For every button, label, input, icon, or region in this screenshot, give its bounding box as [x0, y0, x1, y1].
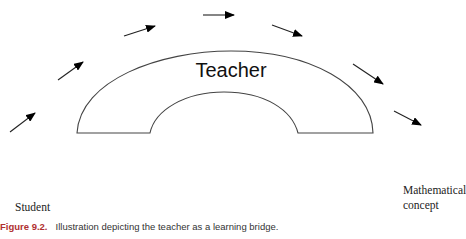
concept-label-line-1: Mathematical [403, 183, 466, 198]
teacher-label: Teacher [181, 59, 281, 82]
mathematical-concept-label: Mathematical concept [403, 183, 466, 213]
arrow-icon [353, 64, 383, 84]
figure-number: Figure 9.2. [0, 221, 48, 232]
arrow-icon [58, 62, 83, 80]
arrow-icon [10, 113, 35, 132]
student-label: Student [15, 201, 50, 213]
caption-text: Illustration depicting the teacher as a … [56, 221, 279, 232]
arrow-icon [394, 111, 421, 125]
concept-label-line-2: concept [403, 198, 466, 213]
arrow-icon [124, 26, 155, 36]
figure-caption: Figure 9.2.Illustration depicting the te… [0, 221, 278, 232]
arrow-icon [272, 25, 302, 36]
